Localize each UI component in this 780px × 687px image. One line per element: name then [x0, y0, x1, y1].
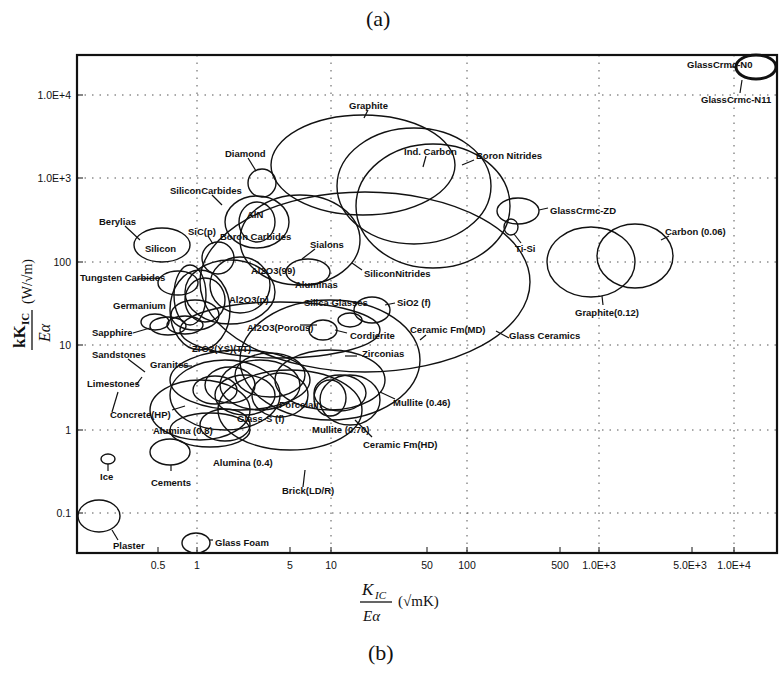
label-sialons: Sialons: [310, 239, 344, 250]
y-tick: 10: [59, 339, 71, 351]
label-graphite: Graphite: [349, 100, 388, 111]
label-mullite-046: Mullite (0.46): [393, 397, 451, 408]
label-tungsten-carbides: Tungsten Carbides: [80, 272, 165, 283]
label-graphite-012: Graphite(0.12): [575, 307, 639, 318]
label-glasscrmc-n0: GlassCrmc-N0: [687, 59, 752, 70]
label-zirconias: Zirconias: [362, 348, 404, 359]
label-mullite-070: Mullite (0.70): [312, 424, 370, 435]
y-tick-labels: 1.0E+4 1.0E+3 100 10 1 0.1: [37, 89, 71, 519]
x-tick: 10: [325, 559, 337, 571]
panel-label-b: (b): [368, 640, 394, 666]
x-tick: 100: [458, 559, 476, 571]
x-tick: 5.0E+3: [673, 559, 707, 571]
svg-text:IC: IC: [374, 589, 387, 601]
label-alumina-04: Alumina (0.4): [213, 457, 273, 468]
x-axis-title: K IC Eα (√mK): [360, 580, 439, 624]
label-aln: AlN: [247, 209, 264, 220]
svg-text:K: K: [361, 580, 375, 599]
label-boron-carbides: Boron Carbides: [220, 231, 291, 242]
label-plaster: Plaster: [113, 540, 145, 551]
label-al2o3-p: Al2O3(p): [229, 294, 269, 305]
label-sandstones: Sandstones: [92, 349, 146, 360]
y-tick: 0.1: [56, 507, 71, 519]
label-ice: Ice: [100, 471, 113, 482]
label-sic-p: SiC(p): [188, 226, 216, 237]
label-al2o3-porous: Al2O3(Porous): [247, 322, 314, 333]
label-concrete-hp: Concrete(HP): [110, 409, 171, 420]
label-cordierite: Cordierite: [350, 330, 395, 341]
label-porcelain: Porcelain: [279, 399, 322, 410]
x-tick-labels: 0.5 1 5 10 50 100 500 1.0E+3 5.0E+3 1.0E…: [151, 559, 751, 571]
label-silica-glasses: Silica Glasses: [304, 297, 368, 308]
label-carbon-006: Carbon (0.06): [665, 226, 726, 237]
label-glass-ceramics: Glass Ceramics: [509, 330, 580, 341]
y-tick: 1.0E+3: [37, 172, 71, 184]
label-glass-foam: Glass Foam: [215, 537, 269, 548]
label-glass-s-f: Glass-S (f): [237, 413, 285, 424]
label-granites: Granites: [150, 359, 189, 370]
label-sapphire: Sapphire: [92, 327, 133, 338]
label-diamond: Diamond: [225, 148, 266, 159]
y-axis-title: kK IC Eα (W/√m): [10, 259, 53, 350]
label-cements: Cements: [151, 477, 191, 488]
material-selection-chart: 1.0E+4 1.0E+3 100 10 1 0.1 0.5 1 5 10 50…: [0, 0, 780, 687]
svg-text:(W/√m): (W/√m): [20, 259, 36, 304]
label-boron-nitrides: Boron Nitrides: [476, 150, 542, 161]
label-al2o3-99: Al2O3(99): [251, 265, 295, 276]
x-tick: 1.0E+3: [582, 559, 616, 571]
label-silicon-carbides: SiliconCarbides: [170, 185, 242, 196]
label-glasscrmc-n11: GlassCrmc-N11: [701, 94, 772, 105]
label-sio2-f: SiO2 (f): [397, 297, 431, 308]
label-ti-si: Ti-Si: [515, 243, 535, 254]
svg-text:kK: kK: [10, 325, 29, 348]
x-tick: 500: [551, 559, 569, 571]
label-aluminas: Aluminas: [295, 279, 338, 290]
label-ind-carbon: Ind. Carbon: [404, 146, 457, 157]
x-tick: 1: [194, 559, 200, 571]
label-brick-ld-r: Brick(LD/R): [282, 485, 334, 496]
x-tick: 1.0E+4: [717, 559, 751, 571]
label-ceramic-fm-hd: Ceramic Fm(HD): [363, 439, 437, 450]
y-tick: 1.0E+4: [37, 89, 71, 101]
svg-text:Eα: Eα: [36, 323, 53, 343]
label-zro2-ys-tt: ZrO2(YS)(TT): [192, 343, 251, 354]
svg-text:(√mK): (√mK): [398, 593, 439, 610]
label-ceramic-fm-md: Ceramic Fm(MD): [410, 324, 486, 335]
x-tick: 5: [287, 559, 293, 571]
y-tick: 100: [53, 256, 71, 268]
x-tick: 0.5: [151, 559, 166, 571]
svg-text:IC: IC: [19, 313, 31, 325]
label-berylias: Berylias: [99, 216, 136, 227]
label-silicon-nitrides: SiliconNitrides: [364, 268, 431, 279]
label-silicon: Silicon: [145, 243, 176, 254]
label-germanium: Germanium: [113, 300, 166, 311]
label-glasscrmc-zd: GlassCrmc-ZD: [550, 205, 616, 216]
y-tick: 1: [65, 424, 71, 436]
x-tick: 50: [421, 559, 433, 571]
material-labels: GlassCrmc-N0 GlassCrmc-N11 Graphite Ind.…: [80, 59, 772, 551]
svg-text:Eα: Eα: [362, 608, 381, 624]
label-limestones: Limestones: [87, 378, 140, 389]
label-alumina-08: Alumina (0.8): [153, 425, 213, 436]
